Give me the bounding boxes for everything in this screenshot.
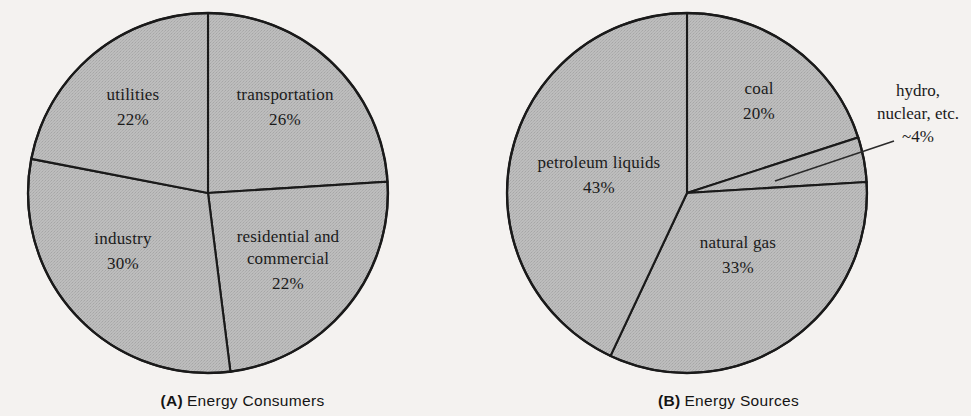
label-utilities: utilities 22% xyxy=(63,84,203,131)
caption-panel-a: (A)Energy Consumers xyxy=(0,392,485,410)
label-transportation-value: 26% xyxy=(205,109,365,131)
label-natural-gas-value: 33% xyxy=(668,257,808,279)
label-coal-value: 20% xyxy=(699,103,819,125)
caption-a-text: Energy Consumers xyxy=(187,392,324,409)
label-natural-gas: natural gas 33% xyxy=(668,232,808,279)
label-petroleum-liquids: petroleum liquids 43% xyxy=(509,152,689,199)
label-transportation: transportation 26% xyxy=(205,84,365,131)
label-hydro-nuclear: hydro, nuclear, etc. ~4% xyxy=(843,80,971,149)
caption-b-text: Energy Sources xyxy=(684,392,798,409)
label-residential-line2: commercial xyxy=(247,249,329,268)
label-utilities-name: utilities xyxy=(107,85,160,104)
panel-energy-consumers: utilities 22% transportation 26% industr… xyxy=(0,0,485,416)
pie-chart-a xyxy=(0,0,485,400)
label-utilities-value: 22% xyxy=(63,109,203,131)
label-industry: industry 30% xyxy=(53,228,193,275)
label-transportation-name: transportation xyxy=(236,85,333,104)
label-petroleum-name: petroleum liquids xyxy=(538,153,661,172)
label-hydro-value: ~4% xyxy=(902,127,934,146)
caption-a-tag: (A) xyxy=(161,392,183,409)
label-residential-value: 22% xyxy=(208,273,368,295)
caption-panel-b: (B)Energy Sources xyxy=(486,392,971,410)
label-hydro-line1: hydro, xyxy=(896,81,940,100)
label-petroleum-value: 43% xyxy=(509,177,689,199)
energy-pie-figure: utilities 22% transportation 26% industr… xyxy=(0,0,971,416)
label-natural-gas-name: natural gas xyxy=(700,233,776,252)
caption-b-tag: (B) xyxy=(658,392,680,409)
label-hydro-line2: nuclear, etc. xyxy=(877,104,959,123)
label-residential-line1: residential and xyxy=(237,227,340,246)
label-coal-name: coal xyxy=(744,79,773,98)
label-industry-value: 30% xyxy=(53,253,193,275)
pie-chart-b xyxy=(486,0,971,400)
label-residential-commercial: residential and commercial 22% xyxy=(208,226,368,295)
label-coal: coal 20% xyxy=(699,78,819,125)
label-industry-name: industry xyxy=(94,229,151,248)
panel-energy-sources: coal 20% petroleum liquids 43% natural g… xyxy=(486,0,971,416)
